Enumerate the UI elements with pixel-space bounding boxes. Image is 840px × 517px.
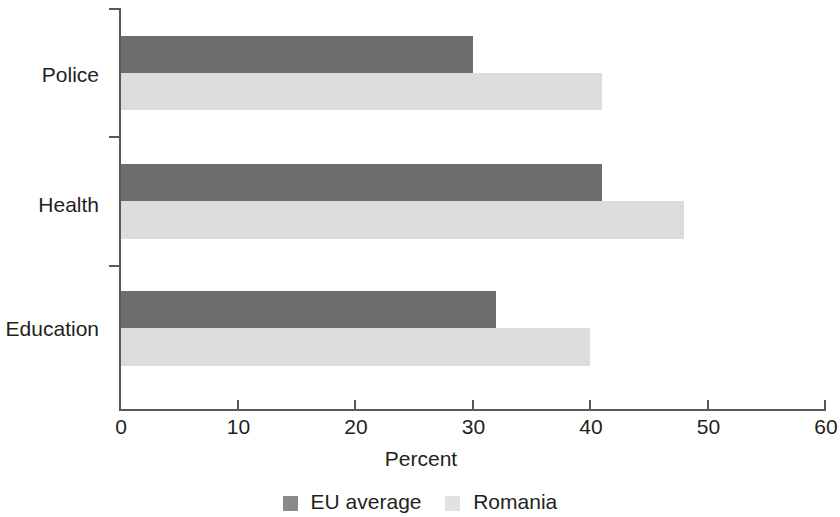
x-axis-tick-label-30: 30 <box>444 414 504 440</box>
category-label-health: Health <box>38 192 99 218</box>
category-label-police: Police <box>42 62 99 88</box>
category-label-education: Education <box>6 316 99 342</box>
bar-chart: 0 10 20 30 40 50 60 Police Health Educat… <box>0 0 840 517</box>
x-axis-title: Percent <box>0 446 840 472</box>
y-axis-tick-police-health <box>109 136 120 138</box>
x-axis-title-text: Percent <box>385 446 457 472</box>
bar-education-eu-average <box>121 291 496 328</box>
x-axis-tick-label-20: 20 <box>326 414 386 440</box>
legend-label-eu-average: EU average <box>311 489 422 515</box>
x-axis-tick-10 <box>237 400 239 411</box>
x-axis-tick-20 <box>354 400 356 411</box>
x-axis-tick-label-10: 10 <box>209 414 269 440</box>
x-axis-tick-label-60: 60 <box>796 414 840 440</box>
x-axis-tick-30 <box>472 400 474 411</box>
legend-label-romania: Romania <box>473 489 557 515</box>
legend-swatch-icon-eu-average <box>283 496 298 511</box>
x-axis-tick-0 <box>119 400 121 411</box>
bar-health-eu-average <box>121 164 602 201</box>
x-axis-tick-50 <box>707 400 709 411</box>
x-axis-tick-label-40: 40 <box>561 414 621 440</box>
x-axis-tick-label-50: 50 <box>679 414 739 440</box>
x-axis-tick-40 <box>589 400 591 411</box>
x-axis-tick-60 <box>824 400 826 411</box>
bar-police-eu-average <box>121 36 473 73</box>
bar-health-romania <box>121 201 684 239</box>
y-axis-tick-top <box>109 8 120 10</box>
legend-item-eu-average: EU average <box>283 489 422 515</box>
legend-swatch-icon-romania <box>445 496 460 511</box>
bar-police-romania <box>121 73 602 110</box>
bar-education-romania <box>121 328 590 366</box>
x-axis-tick-label-0: 0 <box>91 414 151 440</box>
plot-area: 0 10 20 30 40 50 60 Police Health Educat… <box>0 0 840 517</box>
y-axis-tick-health-education <box>109 265 120 267</box>
chart-legend: EU average Romania <box>0 488 840 515</box>
legend-item-romania: Romania <box>445 489 557 515</box>
